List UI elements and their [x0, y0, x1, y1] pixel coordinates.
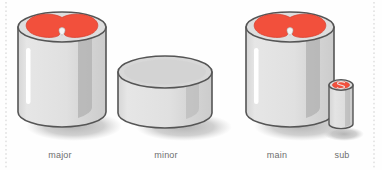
- cylinder-major: [18, 12, 106, 127]
- cylinder-minor: [118, 56, 212, 128]
- cylinders-illustration: [0, 0, 382, 170]
- cylinder-sub-shade: [345, 85, 350, 127]
- label-major: major: [30, 150, 90, 160]
- label-sub: sub: [312, 150, 372, 160]
- cylinder-main: [246, 12, 334, 127]
- figure-canvas: major minor main sub: [0, 0, 382, 170]
- cylinder-minor-top-inner: [124, 60, 206, 85]
- cylinder-major-highlight: [26, 48, 31, 104]
- cylinder-sub: [329, 80, 353, 129]
- cylinder-main-highlight: [254, 48, 259, 104]
- label-main: main: [247, 150, 307, 160]
- label-minor: minor: [136, 150, 196, 160]
